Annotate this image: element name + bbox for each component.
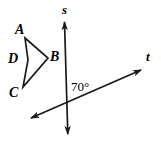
vertex-label-a: A <box>15 23 24 37</box>
vertex-label-b: B <box>50 50 59 64</box>
vertex-label-d: D <box>8 52 18 66</box>
angle-measure-label: 70° <box>71 80 89 93</box>
geometry-figure: A B C D s t 70° <box>0 0 161 141</box>
geometry-canvas <box>0 0 161 141</box>
quadrilateral-abcd <box>23 38 48 87</box>
line-t <box>31 70 141 118</box>
line-label-s: s <box>62 3 67 16</box>
line-label-t: t <box>146 50 150 63</box>
line-s <box>65 22 68 134</box>
vertex-label-c: C <box>9 86 18 100</box>
